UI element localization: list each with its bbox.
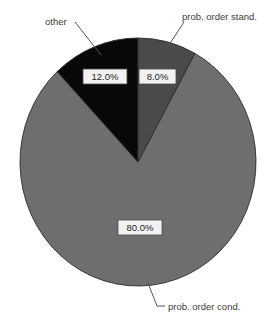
callout-label-prob-order-cond: prob. order cond. [168,301,240,312]
value-label-other: 12.0% [83,69,127,84]
value-label-prob-order-cond: 80.0% [118,220,162,235]
value-label-other-text: 12.0% [92,71,119,82]
value-label-prob-order-stand: 8.0% [139,69,176,84]
leader-line-prob-order-cond [148,283,165,306]
value-label-prob-order-stand-text: 8.0% [147,71,169,82]
callout-label-prob-order-stand: prob. order stand. [182,11,257,22]
pie-chart-canvas: other prob. order stand. prob. order con… [0,0,278,333]
value-label-prob-order-cond-text: 80.0% [127,222,154,233]
callout-label-other: other [45,16,67,27]
pie-chart: other prob. order stand. prob. order con… [0,0,278,333]
